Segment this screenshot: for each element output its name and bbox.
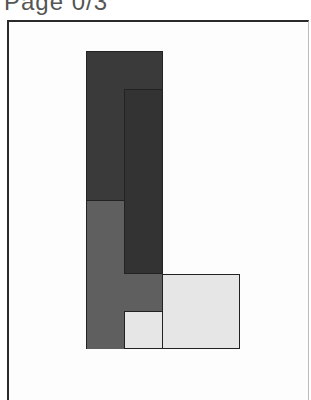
piece-outline (124, 89, 163, 274)
piece-outline (124, 311, 163, 349)
piece-outline (86, 200, 124, 201)
page-label: Page 0/3 (4, 0, 108, 16)
piece-outline (163, 274, 240, 349)
